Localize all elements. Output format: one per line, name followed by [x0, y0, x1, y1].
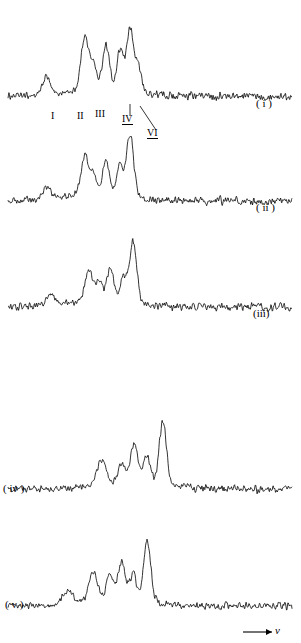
trace-v	[8, 539, 292, 610]
peak-label-II: II	[77, 110, 84, 121]
trace-i	[8, 27, 292, 101]
trace-label-iii: (iii)	[253, 307, 270, 319]
trace-label-v: ( v )	[5, 598, 23, 610]
peak-label-I: I	[51, 110, 54, 121]
trace-label-iv: ( iv )	[3, 482, 24, 494]
peak-label-IV: IV	[122, 113, 133, 125]
trace-ii	[8, 136, 292, 205]
x-axis-arrow-head	[266, 629, 272, 635]
peak-label-VI: VI	[147, 127, 158, 139]
trace-label-i: ( i )	[256, 97, 272, 109]
trace-label-ii: ( ii )	[256, 201, 275, 213]
axis-label-x: v	[275, 624, 280, 636]
figure-root: ( i ) ( ii ) (iii) ( iv ) ( v ) I II III…	[0, 0, 301, 643]
peak-label-III: III	[95, 108, 105, 119]
trace-iii	[8, 239, 292, 312]
trace-iv	[8, 420, 292, 493]
